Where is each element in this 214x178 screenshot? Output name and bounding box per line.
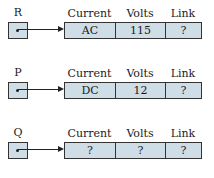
- pointer-box: [8, 82, 28, 99]
- record-row-q: Q Current Volts Link ? ? ?: [0, 126, 214, 166]
- record-row-p: P Current Volts Link DC 12 ?: [0, 66, 214, 106]
- cell-volts: ?: [116, 143, 166, 158]
- header-volts: Volts: [115, 67, 165, 80]
- header-current: Current: [64, 127, 115, 140]
- header-volts: Volts: [115, 127, 165, 140]
- cell-link: ?: [166, 143, 201, 158]
- cell-current: ?: [65, 143, 116, 158]
- pointer-label: R: [8, 6, 28, 19]
- header-link: Link: [165, 127, 201, 140]
- cell-volts: 115: [116, 23, 166, 38]
- cell-volts: 12: [116, 83, 166, 98]
- header-link: Link: [165, 7, 201, 20]
- pointer-label: P: [8, 66, 28, 79]
- header-link: Link: [165, 67, 201, 80]
- arrow-line: [18, 89, 62, 90]
- record-box: DC 12 ?: [64, 82, 202, 99]
- pointer-label: Q: [8, 126, 28, 139]
- record-box: ? ? ?: [64, 142, 202, 159]
- cell-link: ?: [166, 83, 201, 98]
- cell-link: ?: [166, 23, 201, 38]
- cell-current: AC: [65, 23, 116, 38]
- pointer-box: [8, 142, 28, 159]
- pointer-box: [8, 22, 28, 39]
- arrow-line: [18, 149, 62, 150]
- record-box: AC 115 ?: [64, 22, 202, 39]
- record-row-r: R Current Volts Link AC 115 ?: [0, 6, 214, 46]
- cell-current: DC: [65, 83, 116, 98]
- header-current: Current: [64, 67, 115, 80]
- header-volts: Volts: [115, 7, 165, 20]
- arrow-line: [18, 29, 62, 30]
- header-current: Current: [64, 7, 115, 20]
